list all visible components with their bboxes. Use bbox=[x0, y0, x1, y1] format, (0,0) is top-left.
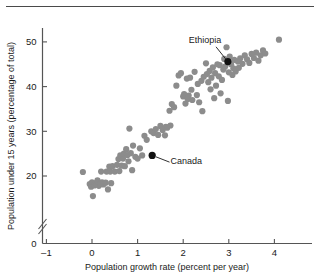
y-axis-tick-label: 0 bbox=[31, 238, 36, 249]
data-point bbox=[178, 70, 184, 76]
data-point bbox=[246, 60, 252, 66]
data-point bbox=[139, 152, 145, 158]
data-point bbox=[196, 99, 202, 105]
annotation-label: Canada bbox=[170, 156, 202, 166]
y-axis-title: Population under 15 years (percentage of… bbox=[6, 42, 16, 230]
data-point bbox=[199, 108, 205, 114]
data-point bbox=[189, 97, 195, 103]
annotation-leader-line bbox=[156, 157, 170, 162]
data-point bbox=[203, 60, 209, 66]
x-axis-tick-label: 2 bbox=[181, 247, 186, 258]
data-point bbox=[162, 132, 168, 138]
data-point bbox=[276, 37, 282, 43]
data-point bbox=[125, 158, 131, 164]
data-point bbox=[217, 90, 223, 96]
data-point bbox=[188, 87, 194, 93]
data-point bbox=[167, 122, 173, 128]
data-point bbox=[262, 50, 268, 56]
data-point bbox=[129, 167, 135, 173]
scatter-plot-canvas: 020304050–101234Population growth rate (… bbox=[0, 0, 322, 278]
data-point bbox=[144, 137, 150, 143]
scatter-plot-figure: 020304050–101234Population growth rate (… bbox=[0, 0, 322, 278]
x-axis-tick-label: 4 bbox=[272, 247, 277, 258]
data-point bbox=[116, 168, 122, 174]
x-axis-tick-label: 0 bbox=[89, 247, 94, 258]
data-point bbox=[108, 180, 114, 186]
data-point bbox=[187, 75, 193, 81]
data-point bbox=[225, 98, 231, 104]
y-axis-tick-label: 20 bbox=[26, 170, 37, 181]
y-axis-tick-label: 40 bbox=[26, 81, 37, 92]
data-point bbox=[219, 77, 225, 83]
data-point bbox=[211, 95, 217, 101]
highlighted-data-point bbox=[149, 152, 156, 159]
data-point bbox=[239, 61, 245, 67]
data-point bbox=[213, 83, 219, 89]
highlighted-data-point bbox=[224, 58, 231, 65]
data-point bbox=[155, 132, 161, 138]
x-axis-title: Population growth rate (percent per year… bbox=[85, 262, 249, 272]
data-point bbox=[130, 143, 136, 149]
data-point bbox=[137, 145, 143, 151]
x-axis-tick-label: 3 bbox=[226, 247, 231, 258]
data-point bbox=[90, 193, 96, 199]
data-point bbox=[171, 104, 177, 110]
data-point bbox=[98, 168, 104, 174]
data-point bbox=[255, 58, 261, 64]
data-point bbox=[194, 92, 200, 98]
data-point bbox=[173, 83, 179, 89]
data-point bbox=[80, 169, 86, 175]
annotation-label: Ethiopia bbox=[189, 35, 222, 45]
data-point bbox=[122, 163, 128, 169]
y-axis-tick-label: 50 bbox=[26, 36, 37, 47]
data-point bbox=[207, 86, 213, 92]
x-axis-tick-label: –1 bbox=[41, 247, 52, 258]
data-point bbox=[105, 186, 111, 192]
data-point bbox=[126, 126, 132, 132]
x-axis-tick-label: 1 bbox=[135, 247, 140, 258]
data-point bbox=[192, 69, 198, 75]
data-point bbox=[223, 44, 229, 50]
y-axis-tick-label: 30 bbox=[26, 126, 37, 137]
data-point bbox=[103, 180, 109, 186]
